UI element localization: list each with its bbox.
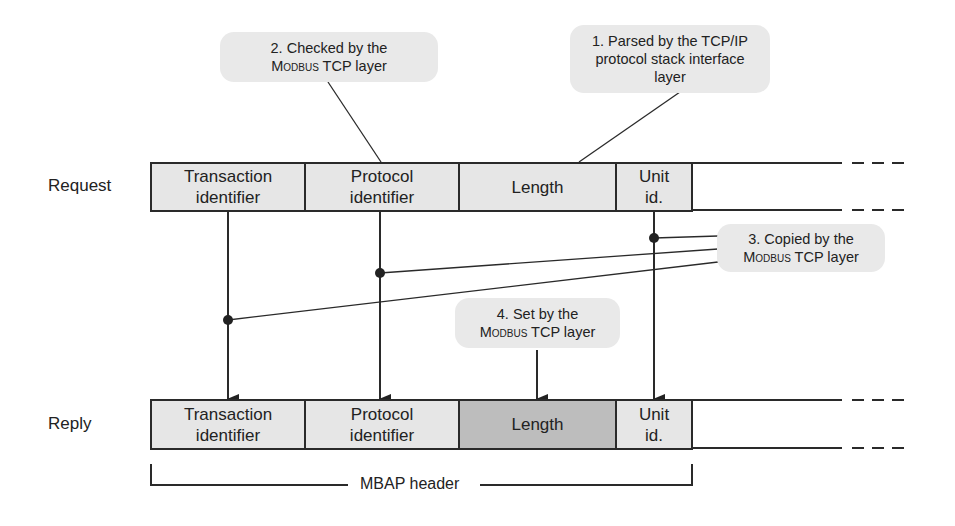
cell-line2: identifier <box>196 426 260 445</box>
callout-line: TCP layer <box>791 249 859 265</box>
reply-transaction-identifier: Transactionidentifier <box>150 399 306 450</box>
cell-line1: Length <box>512 177 564 198</box>
callout-checked-by-modbus: 2. Checked by the Modbus TCP layer <box>220 32 438 82</box>
callout-line: 1. Parsed by the TCP/IP <box>592 33 748 49</box>
callout-line: protocol stack interface <box>595 51 744 67</box>
mbap-header-label: MBAP header <box>354 475 465 493</box>
cell-line1: Unit <box>639 405 669 424</box>
cell-line2: identifier <box>350 426 414 445</box>
request-label: Request <box>48 176 111 196</box>
cell-line2: id. <box>645 188 663 207</box>
cell-line1: Protocol <box>351 405 413 424</box>
request-unit-id: Unitid. <box>615 162 693 212</box>
cell-line1: Unit <box>639 167 669 186</box>
callout-line: 3. Copied by the <box>748 231 854 247</box>
callout-line: TCP layer <box>319 58 387 74</box>
request-transaction-identifier: Transactionidentifier <box>150 162 306 212</box>
callout-parsed-by-tcpip: 1. Parsed by the TCP/IP protocol stack i… <box>570 25 770 93</box>
cell-line1: Protocol <box>351 167 413 186</box>
reply-label: Reply <box>48 414 91 434</box>
reply-unit-id: Unitid. <box>615 399 693 450</box>
cell-line1: Length <box>512 414 564 435</box>
modbus-smallcaps: Modbus <box>271 58 319 74</box>
request-protocol-identifier: Protocolidentifier <box>304 162 460 212</box>
cell-line1: Transaction <box>184 405 272 424</box>
callout-line: 2. Checked by the <box>271 40 388 56</box>
request-length: Length <box>458 162 617 212</box>
reply-length: Length <box>458 399 617 450</box>
callout-copied-by-modbus: 3. Copied by the Modbus TCP layer <box>717 224 885 272</box>
callout-line: TCP layer <box>527 324 595 340</box>
callout-line: 4. Set by the <box>497 306 578 322</box>
reply-protocol-identifier: Protocolidentifier <box>304 399 460 450</box>
callout-set-by-modbus: 4. Set by the Modbus TCP layer <box>455 298 620 348</box>
cell-line2: identifier <box>196 188 260 207</box>
modbus-smallcaps: Modbus <box>743 249 791 265</box>
modbus-smallcaps: Modbus <box>480 324 528 340</box>
cell-line2: id. <box>645 426 663 445</box>
cell-line1: Transaction <box>184 167 272 186</box>
callout-line: layer <box>654 69 685 85</box>
cell-line2: identifier <box>350 188 414 207</box>
